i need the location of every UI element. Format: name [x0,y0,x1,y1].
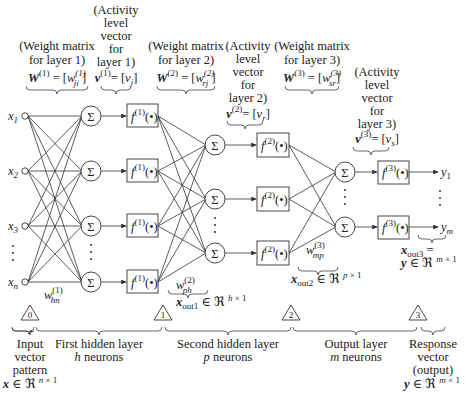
layer3-connections [289,145,336,253]
svg-text:layer 2): layer 2) [229,91,268,105]
layer1-activation-boxes: f(1)(•) f(1)(•) f(1)(•) f(1)(•) [127,104,158,293]
svg-text:for: for [109,42,124,56]
svg-text:v(3)= [vs]: v(3)= [vs] [355,129,399,148]
layer2-ellipsis-dots [214,217,216,233]
input-node-x3: x3 [7,219,28,235]
svg-text:m neurons: m neurons [330,350,382,364]
svg-text:1: 1 [161,310,166,320]
sum-node: Σ [335,162,355,182]
svg-text:W(3) = [w(3)sr]: W(3) = [w(3)sr] [283,68,341,88]
layer2-connections [158,116,206,282]
layer-marker-3: 3 [409,305,427,320]
section-response: Response vector (output) y ∈ ℜ m × 1 [402,337,460,391]
layer2-sum-nodes: Σ Σ Σ [205,135,225,263]
svg-text:layer 1): layer 1) [97,55,136,69]
svg-text:p neurons: p neurons [203,350,253,364]
activation-box-f1: f(1)(•) [127,214,158,237]
input-node-x2: x2 [7,164,28,180]
svg-text:x3: x3 [7,219,19,235]
output-ym: ym [439,220,454,236]
svg-text:x ∈ ℜ n × 1: x ∈ ℜ n × 1 [2,375,57,391]
xout3-label: xout3 = y ∈ ℜ m × 1 [399,235,457,270]
activity-vector-layer3-annotation: (Activity level vector for layer 3) v(3)… [353,65,400,155]
activation-box-f2: f(2)(•) [257,241,289,265]
weight-matrix-layer2-annotation: (Weight matrix for layer 2) W(2) = [w(2)… [148,39,224,94]
svg-text:Σ: Σ [87,165,94,179]
input-nodes: x1 x2 x3 xn [7,109,28,291]
svg-text:(Activity: (Activity [93,3,139,17]
svg-text:for: for [370,104,385,118]
section-hidden1: First hidden layer h neurons [55,337,144,364]
svg-text:for layer 1): for layer 1) [29,53,85,67]
sum-node: Σ [335,217,355,237]
layer1-ellipsis-dots [90,244,92,260]
svg-text:Second hidden layer: Second hidden layer [177,337,280,351]
weight-matrix-layer1-annotation: (Weight matrix for layer 1) W(1) = [w(1)… [19,39,95,94]
layer2-activation-boxes: f(2)(•) f(2)(•) f(2)(•) [257,133,289,265]
sum-node: Σ [205,189,225,209]
activation-box-f2: f(2)(•) [257,133,289,157]
svg-text:First hidden layer: First hidden layer [55,337,144,351]
activation-box-f1: f(1)(•) [127,104,158,127]
svg-text:xn: xn [7,275,19,291]
layer3-ellipsis-dots [344,189,346,205]
bottom-braces [12,327,445,335]
sum-node: Σ [81,272,101,292]
svg-text:xout2 ∈ ℜ p × 1: xout2 ∈ ℜ p × 1 [290,270,361,288]
xout1-label: xout1 ∈ ℜ h × 1 [168,290,246,311]
layer2-sum-to-activation-arrows [225,145,256,253]
svg-text:level: level [365,78,390,92]
activation-box-f2: f(2)(•) [257,187,289,211]
svg-text:0: 0 [28,310,33,320]
xout2-label: xout2 ∈ ℜ p × 1 [290,267,361,288]
layer-marker-2: 2 [282,305,300,320]
svg-text:y ∈ ℜ m × 1: y ∈ ℜ m × 1 [399,254,457,270]
svg-text:Σ: Σ [341,221,348,235]
output-y1: y1 [439,165,451,181]
sum-node: Σ [81,106,101,126]
activation-box-f1: f(1)(•) [127,270,158,293]
svg-text:h neurons: h neurons [75,350,124,364]
svg-text:vector: vector [361,91,393,105]
weight-label-w-hn-1: w(1)hn [44,285,63,305]
section-input: Input vector pattern x ∈ ℜ n × 1 [2,337,57,391]
section-output: Output layer m neurons [325,337,389,364]
svg-text:Σ: Σ [87,276,94,290]
layer3-sum-to-activation-arrows [355,172,377,227]
output-ellipsis-dots [439,190,441,206]
activity-vector-layer2-annotation: (Activity level vector for layer 2) v(2)… [225,39,271,129]
activity-vector-layer1-annotation: (Activity level vector for layer 1) v(1)… [93,3,139,94]
svg-text:x1: x1 [7,109,18,125]
neural-network-diagram: (Weight matrix for layer 1) W(1) = [w(1)… [0,0,466,395]
svg-text:(Activity: (Activity [225,39,271,53]
weight-matrix-layer3-annotation: (Weight matrix for layer 3) W(3) = [w(3)… [274,39,350,94]
input-node-x1: x1 [7,109,28,125]
svg-text:Σ: Σ [87,220,94,234]
svg-text:Σ: Σ [211,193,218,207]
svg-text:vector: vector [417,350,449,364]
svg-text:3: 3 [416,310,421,320]
layer3-activation-boxes: f(3)(•) f(3)(•) [378,161,409,239]
activation-box-f3: f(3)(•) [378,216,409,239]
svg-text:xout1 ∈ ℜ h × 1: xout1 ∈ ℜ h × 1 [175,293,246,311]
weight-label-w-ph-2: w(2)ph [176,275,195,295]
output-nodes: y1 ym [439,165,454,236]
sum-node: Σ [81,216,101,236]
svg-text:vector: vector [100,29,132,43]
svg-text:2: 2 [289,310,294,320]
sum-node: Σ [205,243,225,263]
svg-text:for layer 2): for layer 2) [158,53,214,67]
svg-text:Σ: Σ [341,166,348,180]
svg-text:level: level [236,52,261,66]
section-hidden2: Second hidden layer p neurons [177,337,280,364]
layer3-sum-nodes: Σ Σ [335,162,355,237]
svg-text:(Weight matrix: (Weight matrix [148,39,224,53]
activation-box-f1: f(1)(•) [127,159,158,182]
svg-text:vector: vector [14,350,46,364]
sum-node: Σ [81,161,101,181]
svg-text:(Activity: (Activity [354,65,400,79]
svg-text:Σ: Σ [211,139,218,153]
svg-text:(Weight matrix: (Weight matrix [274,39,350,53]
activation-box-f3: f(3)(•) [378,161,409,184]
svg-text:Σ: Σ [87,110,94,124]
